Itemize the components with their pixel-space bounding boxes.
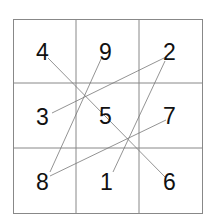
cell-r2c3: 7 (163, 105, 176, 128)
cell-r3c1: 8 (36, 171, 49, 194)
number-grid: 4 9 2 3 5 7 8 1 6 (13, 19, 202, 213)
cell-r3c2: 1 (100, 171, 113, 194)
cell-r2c2: 5 (99, 105, 112, 128)
cell-r1c1: 4 (36, 41, 49, 64)
cell-r1c3: 2 (163, 41, 176, 64)
cell-r2c1: 3 (36, 106, 49, 129)
cell-r1c2: 9 (99, 41, 112, 64)
cell-r3c3: 6 (163, 171, 176, 194)
